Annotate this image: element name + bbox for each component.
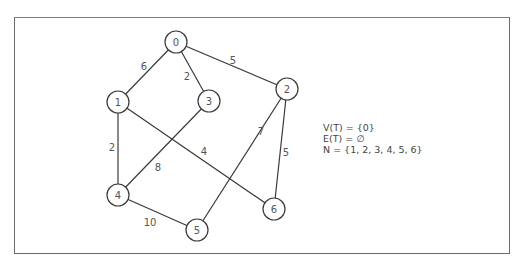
node-label: 3 — [206, 96, 212, 107]
edge-weight-3-4: 8 — [155, 162, 161, 173]
graph-node-4: 4 — [107, 184, 129, 206]
remaining-set-text: N = {1, 2, 3, 4, 5, 6} — [323, 144, 423, 155]
edge-0-2 — [176, 42, 287, 89]
graph-node-0: 0 — [165, 31, 187, 53]
node-label: 4 — [115, 190, 121, 201]
edge-weight-0-2: 5 — [230, 55, 236, 66]
edge-1-6 — [118, 102, 274, 209]
vertex-set-text: V(T) = {0} — [323, 122, 423, 133]
graph-node-5: 5 — [186, 219, 208, 241]
node-label: 5 — [194, 225, 200, 236]
edge-4-5 — [118, 195, 197, 230]
prim-state-panel: V(T) = {0} E(T) = ∅ N = {1, 2, 3, 4, 5, … — [323, 122, 423, 155]
edge-weight-1-4: 2 — [109, 142, 115, 153]
node-label: 0 — [173, 37, 179, 48]
edge-0-1 — [118, 42, 176, 102]
edge-weight-0-1: 6 — [141, 61, 147, 72]
edge-weight-4-5: 10 — [144, 217, 157, 228]
node-label: 1 — [115, 97, 121, 108]
edge-set-text: E(T) = ∅ — [323, 133, 423, 144]
graph-node-1: 1 — [107, 91, 129, 113]
node-label: 6 — [271, 204, 277, 215]
edge-weight-0-3: 2 — [184, 71, 190, 82]
graph-canvas: 6252487510 0123456 — [0, 0, 521, 266]
graph-node-2: 2 — [276, 78, 298, 100]
edge-weight-2-5: 7 — [258, 126, 264, 137]
edge-weight-1-6: 4 — [201, 146, 207, 157]
node-label: 2 — [284, 84, 290, 95]
edge-weight-2-6: 5 — [283, 147, 289, 158]
graph-node-3: 3 — [198, 90, 220, 112]
graph-nodes: 0123456 — [107, 31, 298, 241]
graph-node-6: 6 — [263, 198, 285, 220]
edge-3-4 — [118, 101, 209, 195]
